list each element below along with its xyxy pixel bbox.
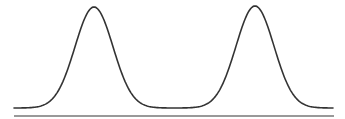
background bbox=[0, 0, 345, 119]
bimodal-curve-diagram bbox=[0, 0, 345, 119]
